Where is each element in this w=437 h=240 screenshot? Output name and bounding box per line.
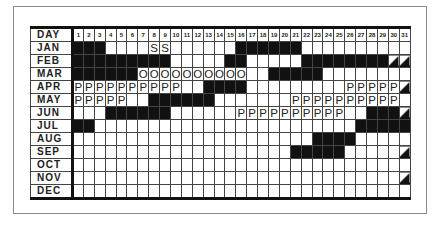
empty-day-cell [279,94,290,107]
empty-day-cell [399,185,410,199]
marked-day-cell: O [214,68,225,81]
empty-day-cell [312,172,323,185]
day-number: 30 [388,28,399,42]
empty-day-cell [247,146,258,159]
empty-day-cell [105,159,116,172]
blocked-day-cell [323,55,334,68]
marked-day-cell: P [356,81,367,94]
empty-day-cell [160,172,171,185]
day-header-label: DAY [31,28,73,42]
day-number: 29 [377,28,388,42]
empty-day-cell [247,120,258,133]
marked-day-cell: P [138,81,149,94]
marked-day-cell: P [334,94,345,107]
empty-day-cell [214,94,225,107]
marked-day-cell: P [290,107,301,120]
marked-day-cell: P [377,81,388,94]
empty-day-cell [171,133,182,146]
empty-day-cell [149,159,160,172]
empty-day-cell [214,146,225,159]
marked-day-cell: P [149,81,160,94]
empty-day-cell [83,185,94,199]
day-number: 10 [171,28,182,42]
empty-day-cell [323,185,334,199]
month-label: OCT [31,159,73,172]
blocked-day-cell [94,42,105,55]
marked-day-cell: P [105,81,116,94]
marked-day-cell: P [127,81,138,94]
empty-day-cell [258,185,269,199]
empty-day-cell [105,120,116,133]
blocked-day-cell [181,94,192,107]
empty-day-cell [149,133,160,146]
blocked-day-cell [290,68,301,81]
month-row-jan: JANSS [31,42,411,55]
empty-day-cell [116,133,127,146]
blocked-day-cell [83,42,94,55]
empty-day-cell [301,133,312,146]
month-row-apr: APRPPPPPPPPPPPPPPP [31,81,411,94]
blocked-day-cell [73,55,84,68]
empty-day-cell [312,42,323,55]
blocked-day-cell [203,94,214,107]
empty-day-cell [181,81,192,94]
blocked-day-cell [269,42,280,55]
empty-day-cell [171,172,182,185]
empty-day-cell [149,146,160,159]
day-number: 18 [258,28,269,42]
empty-day-cell [388,133,399,146]
empty-day-cell [214,42,225,55]
empty-day-cell [94,185,105,199]
empty-day-cell [203,55,214,68]
empty-day-cell [258,120,269,133]
blocked-day-cell [225,81,236,94]
day-number: 23 [312,28,323,42]
blocked-day-cell [247,42,258,55]
empty-day-cell [192,42,203,55]
empty-day-cell [171,55,182,68]
empty-day-cell [356,42,367,55]
blocked-day-cell [149,94,160,107]
invalid-day-cell [399,172,410,185]
month-row-sep: SEP [31,146,411,159]
blocked-day-cell [367,55,378,68]
month-label: APR [31,81,73,94]
empty-day-cell [94,107,105,120]
empty-day-cell [399,68,410,81]
empty-day-cell [312,185,323,199]
empty-day-cell [214,133,225,146]
empty-day-cell [192,185,203,199]
invalid-day-cell [399,81,410,94]
empty-day-cell [105,172,116,185]
marked-day-cell: P [94,81,105,94]
empty-day-cell [138,146,149,159]
blocked-day-cell [279,68,290,81]
empty-day-cell [181,55,192,68]
marked-day-cell: P [334,107,345,120]
marked-day-cell: O [203,68,214,81]
empty-day-cell [345,185,356,199]
empty-day-cell [94,172,105,185]
blocked-day-cell [116,68,127,81]
empty-day-cell [334,81,345,94]
empty-day-cell [214,159,225,172]
empty-day-cell [181,146,192,159]
blocked-day-cell [312,146,323,159]
marked-day-cell: P [247,107,258,120]
marked-day-cell: P [116,94,127,107]
blocked-day-cell [236,42,247,55]
empty-day-cell [290,81,301,94]
empty-day-cell [290,185,301,199]
empty-day-cell [388,159,399,172]
blocked-day-cell [334,133,345,146]
empty-day-cell [290,159,301,172]
empty-day-cell [399,42,410,55]
empty-day-cell [73,185,84,199]
empty-day-cell [105,42,116,55]
day-number: 25 [334,28,345,42]
blocked-day-cell [160,107,171,120]
month-row-feb: FEB [31,55,411,68]
empty-day-cell [214,172,225,185]
empty-day-cell [345,42,356,55]
empty-day-cell [171,107,182,120]
